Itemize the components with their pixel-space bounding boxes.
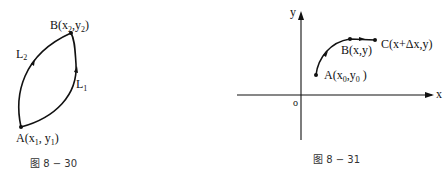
figure-8-31: x y o B(x,y) C(x+Δx,y) A(x0,y0 ) 图 8 − 3… [237,5,442,165]
label-b: B(x,y) [341,43,372,57]
x-axis-label: x [436,87,442,101]
point-c [373,38,377,42]
label-l2: L2 [16,47,27,62]
figure-8-30: B(x2,y2) L2 L1 A(x1, y1) 图 8 − 30 [16,18,89,169]
curve-l2 [19,33,71,127]
label-a: A(x0,y0 ) [324,68,367,84]
point-b [348,37,352,41]
label-b: B(x2,y2) [50,18,89,34]
point-a [314,73,318,77]
x-axis-arrow-icon [425,92,434,98]
y-axis-label: y [290,5,296,19]
point-a [19,125,23,129]
caption-8-30: 图 8 − 30 [30,158,77,169]
origin-label: o [293,97,298,108]
label-a: A(x1, y1) [16,131,59,147]
y-axis-arrow-icon [298,11,304,20]
caption-8-31: 图 8 − 31 [313,154,360,165]
label-l1: L1 [76,77,87,93]
label-c: C(x+Δx,y) [381,37,432,51]
figures-canvas: B(x2,y2) L2 L1 A(x1, y1) 图 8 − 30 x y o … [0,0,447,178]
arrow-bc-icon [359,37,365,41]
